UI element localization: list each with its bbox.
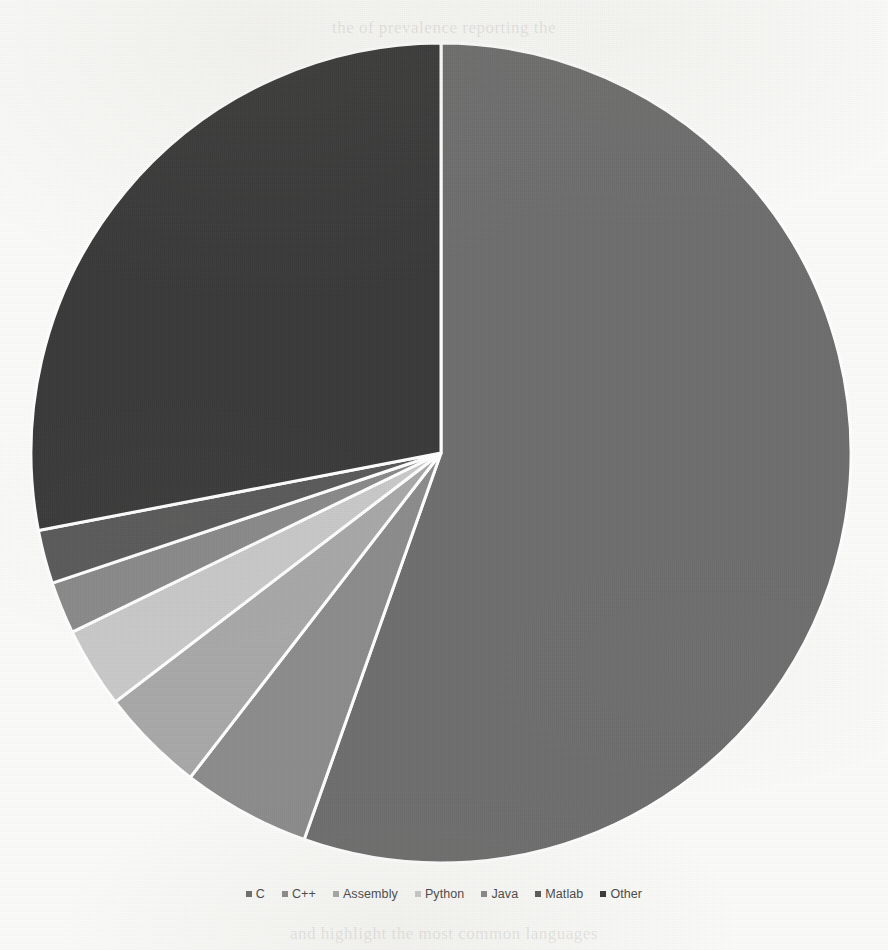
legend-label: Matlab <box>545 888 583 901</box>
legend-swatch-icon <box>282 891 288 897</box>
legend-label: Other <box>610 888 642 901</box>
legend-swatch-icon <box>415 891 421 897</box>
legend-label: Assembly <box>343 888 398 901</box>
legend-swatch-icon <box>333 891 339 897</box>
legend-item-cpp: C++ <box>282 888 316 901</box>
legend-swatch-icon <box>600 891 606 897</box>
legend-swatch-icon <box>246 891 252 897</box>
legend-item-c: C <box>246 888 265 901</box>
pie-chart <box>0 0 888 950</box>
legend-item-python: Python <box>415 888 465 901</box>
legend-label: Java <box>491 888 518 901</box>
pie-slice-group <box>31 43 851 863</box>
legend-swatch-icon <box>481 891 487 897</box>
legend-label: Python <box>425 888 465 901</box>
legend-item-other: Other <box>600 888 642 901</box>
legend-label: C++ <box>292 888 316 901</box>
pie-slice-other <box>31 43 441 531</box>
legend-item-assembly: Assembly <box>333 888 398 901</box>
legend-item-java: Java <box>481 888 518 901</box>
legend-label: C <box>256 888 265 901</box>
chart-legend: CC++AssemblyPythonJavaMatlabOther <box>0 888 888 901</box>
legend-swatch-icon <box>535 891 541 897</box>
legend-item-matlab: Matlab <box>535 888 583 901</box>
pie-chart-svg <box>0 0 888 950</box>
